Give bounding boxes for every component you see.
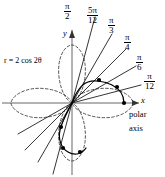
point-theta-5pi-12 bbox=[61, 146, 65, 150]
angle-label-pi-6: π 6 bbox=[136, 53, 143, 73]
angle-label-5pi-12: 5π 12 bbox=[87, 6, 98, 26]
angle-label-pi-12: π 12 bbox=[144, 72, 155, 92]
angle-label-pi-4-denominator: 4 bbox=[124, 42, 131, 52]
polar-graph-canvas bbox=[0, 0, 165, 177]
equation-label: r = 2 cos 2θ bbox=[4, 57, 42, 65]
angle-label-5pi-12-numerator: 5π bbox=[87, 6, 98, 15]
y-axis-label: y bbox=[63, 29, 67, 38]
angle-label-pi-4: π 4 bbox=[124, 33, 131, 53]
point-theta-pi-6 bbox=[97, 78, 101, 82]
polar-rose-figure: r = 2 cos 2θ π 2 5π 12 π 3 π 4 π 6 bbox=[0, 0, 165, 177]
angle-label-pi-12-numerator: π bbox=[144, 72, 155, 81]
angle-label-pi-3: π 3 bbox=[108, 16, 115, 36]
angle-label-pi-3-denominator: 3 bbox=[108, 25, 115, 35]
angle-label-pi-2-numerator: π bbox=[64, 2, 71, 11]
point-theta-0 bbox=[122, 101, 126, 105]
solid-arc-upper bbox=[72, 81, 124, 103]
point-theta-pi-12 bbox=[115, 85, 119, 89]
angle-label-pi-3-numerator: π bbox=[108, 16, 115, 25]
angle-label-5pi-12-denominator: 12 bbox=[87, 15, 98, 25]
polar-axis-label-line1: polar bbox=[129, 110, 146, 119]
angle-label-pi-6-numerator: π bbox=[136, 53, 143, 62]
polar-axis-label-line2: axis bbox=[129, 124, 143, 133]
angle-label-pi-2: π 2 bbox=[64, 2, 71, 22]
angle-label-pi-12-denominator: 12 bbox=[144, 81, 155, 91]
angle-label-pi-6-denominator: 6 bbox=[136, 62, 143, 72]
x-axis-label: x bbox=[141, 96, 145, 105]
ray-5pi-12-extension bbox=[53, 103, 72, 174]
angle-label-pi-2-denominator: 2 bbox=[64, 11, 71, 21]
point-theta-pi-3 bbox=[59, 125, 63, 129]
y-axis-arrowhead bbox=[69, 30, 75, 38]
angle-label-pi-4-numerator: π bbox=[124, 33, 131, 42]
point-theta-pi-2 bbox=[78, 150, 82, 154]
